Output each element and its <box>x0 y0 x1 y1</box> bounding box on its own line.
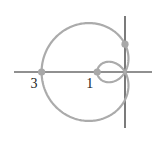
polar-limacon-figure: 31 <box>0 0 164 151</box>
axis-tick-labels: 31 <box>31 76 94 91</box>
marked-points <box>38 41 129 76</box>
point-neg-1 <box>94 68 101 75</box>
point-y-1 <box>121 41 128 48</box>
tick-label-3: 3 <box>31 76 38 91</box>
tick-label-1: 1 <box>86 76 93 91</box>
point-neg-3 <box>38 68 45 75</box>
